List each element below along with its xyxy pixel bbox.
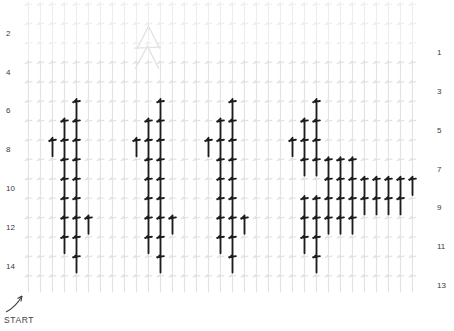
grid-stitch — [397, 2, 404, 20]
grid-stitch — [181, 177, 188, 195]
grid-stitch — [361, 80, 368, 98]
grid-stitch — [97, 215, 104, 233]
grid-stitch — [85, 274, 92, 292]
grid-stitch — [109, 157, 116, 175]
highlight-stitch — [133, 138, 140, 156]
highlight-stitch — [217, 215, 224, 233]
grid-stitch — [97, 21, 104, 39]
grid-stitch — [337, 41, 344, 59]
grid-stitch — [361, 60, 368, 78]
highlight-stitch — [349, 215, 356, 233]
grid-stitch — [325, 118, 332, 136]
grid-stitch — [397, 157, 404, 175]
grid-stitch — [37, 196, 44, 214]
row-number-left-8: 8 — [6, 145, 11, 154]
grid-stitch — [409, 118, 416, 136]
grid-stitch — [121, 157, 128, 175]
grid-stitch — [205, 177, 212, 195]
grid-stitch — [241, 99, 248, 117]
grid-stitch — [169, 138, 176, 156]
grid-stitch — [37, 99, 44, 117]
highlight-stitch — [157, 99, 164, 117]
grid-stitch — [73, 21, 80, 39]
grid-stitch — [265, 21, 272, 39]
highlight-stitch — [157, 157, 164, 175]
grid-stitch — [277, 274, 284, 292]
grid-stitch — [157, 2, 164, 20]
grid-stitch — [97, 2, 104, 20]
grid-stitch — [133, 235, 140, 253]
highlight-stitch — [241, 215, 248, 233]
grid-stitch — [253, 41, 260, 59]
grid-stitch — [49, 99, 56, 117]
grid-stitch — [85, 60, 92, 78]
highlight-stitch — [157, 138, 164, 156]
grid-stitch — [409, 41, 416, 59]
grid-stitch — [49, 41, 56, 59]
grid-stitch — [289, 177, 296, 195]
grid-stitch — [121, 99, 128, 117]
grid-stitch — [361, 274, 368, 292]
grid-stitch — [313, 274, 320, 292]
grid-stitch — [193, 254, 200, 272]
grid-stitch — [205, 99, 212, 117]
highlight-stitch — [337, 177, 344, 195]
grid-stitch — [241, 157, 248, 175]
grid-stitch — [85, 41, 92, 59]
grid-stitch — [169, 41, 176, 59]
row-number-left-10: 10 — [6, 184, 15, 193]
grid-stitch — [409, 21, 416, 39]
highlight-stitch — [217, 118, 224, 136]
highlight-stitch — [313, 157, 320, 175]
grid-stitch — [25, 2, 32, 20]
grid-stitch — [49, 21, 56, 39]
grid-stitch — [109, 138, 116, 156]
grid-stitch — [61, 2, 68, 20]
grid-stitch — [85, 118, 92, 136]
highlight-stitch — [73, 99, 80, 117]
grid-stitch — [169, 60, 176, 78]
grid-stitch — [385, 138, 392, 156]
grid-stitch — [229, 274, 236, 292]
highlight-stitch — [217, 196, 224, 214]
highlight-stitch — [217, 138, 224, 156]
grid-stitch — [277, 138, 284, 156]
grid-stitch — [409, 99, 416, 117]
grid-stitch — [253, 21, 260, 39]
grid-stitch — [121, 215, 128, 233]
highlight-stitch — [157, 215, 164, 233]
grid-stitch — [397, 80, 404, 98]
grid-stitch — [289, 21, 296, 39]
grid-stitch — [25, 80, 32, 98]
grid-stitch — [397, 41, 404, 59]
grid-stitch — [49, 60, 56, 78]
grid-stitch — [241, 80, 248, 98]
grid-stitch — [109, 118, 116, 136]
highlight-stitch — [229, 177, 236, 195]
highlight-stitch — [157, 196, 164, 214]
highlight-stitch — [229, 215, 236, 233]
grid-stitch — [109, 274, 116, 292]
grid-stitch — [97, 99, 104, 117]
grid-stitch — [373, 80, 380, 98]
grid-stitch — [409, 60, 416, 78]
grid-stitch — [61, 254, 68, 272]
highlight-stitch — [409, 177, 416, 195]
highlight-stitch — [313, 235, 320, 253]
grid-stitch — [325, 60, 332, 78]
grid-stitch — [325, 99, 332, 117]
grid-stitch — [49, 118, 56, 136]
highlight-stitch — [61, 177, 68, 195]
grid-stitch — [325, 21, 332, 39]
grid-stitch — [301, 2, 308, 20]
grid-stitch — [37, 177, 44, 195]
highlight-stitch — [301, 118, 308, 136]
grid-stitch — [121, 2, 128, 20]
grid-stitch — [133, 41, 140, 59]
grid-stitch — [133, 177, 140, 195]
grid-stitch — [373, 274, 380, 292]
grid-stitch — [241, 41, 248, 59]
grid-stitch — [253, 177, 260, 195]
grid-stitch — [109, 41, 116, 59]
grid-stitch — [49, 235, 56, 253]
